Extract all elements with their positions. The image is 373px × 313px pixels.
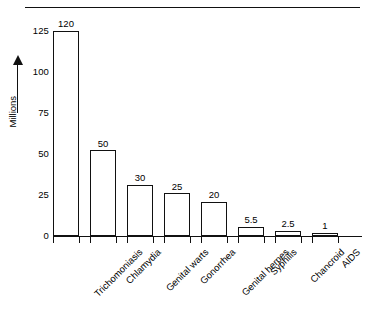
x-tick-mark bbox=[90, 236, 91, 243]
x-tick-mark bbox=[301, 236, 302, 243]
x-tick-mark bbox=[264, 236, 265, 243]
x-tick-mark bbox=[127, 236, 128, 243]
x-tick-mark bbox=[238, 236, 239, 243]
bar-trichomoniasis: 120 bbox=[53, 31, 79, 236]
x-category-label-chancroid: Chancroid bbox=[309, 247, 346, 284]
y-tick-label-75: 75 bbox=[38, 108, 49, 118]
x-tick-mark bbox=[116, 236, 117, 243]
x-category-label-genital-warts: Genital warts bbox=[164, 247, 210, 293]
y-tick-label-0: 0 bbox=[44, 231, 49, 241]
bar-gonorrhea: 25 bbox=[164, 193, 190, 236]
top-horizontal-rule bbox=[25, 7, 360, 8]
x-tick-mark bbox=[153, 236, 154, 243]
x-tick-mark bbox=[275, 236, 276, 243]
y-axis-tick-labels: 125 100 75 50 25 0 bbox=[0, 0, 49, 313]
x-tick-mark bbox=[312, 236, 313, 243]
x-tick-mark bbox=[201, 236, 202, 243]
x-tick-mark bbox=[79, 236, 80, 243]
plot-area: 120 50 30 25 20 5.5 2.5 1 bbox=[53, 22, 362, 236]
bar-genital-herpes: 20 bbox=[201, 202, 227, 236]
bar-value-label: 30 bbox=[135, 173, 146, 183]
y-tick-label-100: 100 bbox=[33, 67, 49, 77]
bar-value-label: 50 bbox=[98, 139, 109, 149]
bar-value-label: 2.5 bbox=[281, 219, 294, 229]
x-tick-mark bbox=[338, 236, 339, 243]
bar-chart-figure: Millions 125 100 75 50 25 0 120 50 30 25… bbox=[0, 0, 373, 313]
bar-value-label: 25 bbox=[172, 182, 183, 192]
bar-value-label: 5.5 bbox=[244, 215, 257, 225]
x-tick-mark bbox=[190, 236, 191, 243]
x-axis-line bbox=[53, 236, 362, 237]
bar-value-label: 1 bbox=[322, 221, 327, 231]
y-tick-label-25: 25 bbox=[38, 190, 49, 200]
x-tick-mark bbox=[227, 236, 228, 243]
bar-value-label: 20 bbox=[209, 190, 220, 200]
bar-genital-warts: 30 bbox=[127, 185, 153, 236]
bar-value-label: 120 bbox=[58, 19, 74, 29]
bar-syphilis: 5.5 bbox=[238, 227, 264, 236]
x-tick-mark bbox=[164, 236, 165, 243]
x-tick-mark bbox=[53, 236, 54, 243]
y-tick-label-125: 125 bbox=[33, 26, 49, 36]
bar-chlamydia: 50 bbox=[90, 150, 116, 236]
y-tick-label-50: 50 bbox=[38, 149, 49, 159]
